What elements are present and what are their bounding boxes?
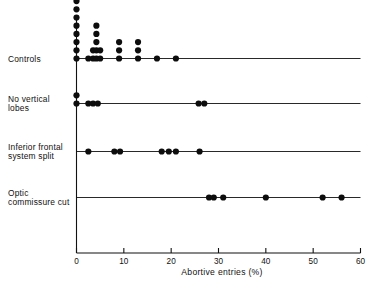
data-point (159, 148, 165, 154)
data-point (73, 55, 79, 61)
x-tick-label-10: 10 (119, 257, 129, 266)
data-point (73, 0, 79, 4)
category-label-1-line-0: No vertical (8, 94, 50, 104)
data-point (338, 194, 344, 200)
data-point (116, 55, 122, 61)
dot-plot-chart: ControlsNo verticallobesInferior frontal… (0, 0, 371, 288)
data-point (154, 55, 160, 61)
data-point (73, 31, 79, 37)
category-label-3-line-1: commissure cut (8, 197, 70, 207)
x-tick-label-40: 40 (261, 257, 271, 266)
x-tick-label-0: 0 (74, 257, 79, 266)
data-point (93, 39, 99, 45)
data-point (173, 148, 179, 154)
data-point (196, 100, 202, 106)
plot-canvas: ControlsNo verticallobesInferior frontal… (0, 0, 371, 288)
data-point (135, 55, 141, 61)
x-tick-label-50: 50 (309, 257, 319, 266)
data-point (263, 194, 269, 200)
data-point (73, 14, 79, 20)
data-point (196, 148, 202, 154)
data-point (73, 92, 79, 98)
category-label-1-line-1: lobes (8, 103, 29, 113)
data-point (97, 55, 103, 61)
data-point (220, 194, 226, 200)
data-point (73, 47, 79, 53)
data-point (116, 39, 122, 45)
data-point (73, 39, 79, 45)
data-point (111, 148, 117, 154)
data-point (85, 148, 91, 154)
x-axis-ticks-group: 0102030405060 (74, 248, 365, 266)
category-label-2-line-1: system split (8, 151, 55, 161)
category-baselines-group (77, 59, 361, 198)
x-tick-label-60: 60 (356, 257, 366, 266)
data-point (320, 194, 326, 200)
data-point (95, 100, 101, 106)
category-labels-group: ControlsNo verticallobesInferior frontal… (8, 54, 70, 208)
data-point (211, 194, 217, 200)
data-point (93, 31, 99, 37)
data-point (135, 47, 141, 53)
data-point (73, 23, 79, 29)
x-axis-title: Abortive entries (%) (181, 267, 262, 277)
category-label-2-line-0: Inferior frontal (8, 142, 63, 152)
category-label-0-line-0: Controls (8, 54, 41, 64)
data-point (117, 148, 123, 154)
data-points-group (73, 0, 344, 201)
category-label-3-line-0: Optic (8, 188, 29, 198)
data-point (116, 47, 122, 53)
data-point (73, 6, 79, 12)
data-point (93, 23, 99, 29)
data-point (73, 100, 79, 106)
data-point (201, 100, 207, 106)
x-tick-label-30: 30 (214, 257, 224, 266)
data-point (173, 55, 179, 61)
x-tick-label-20: 20 (167, 257, 177, 266)
data-point (135, 39, 141, 45)
data-point (166, 148, 172, 154)
data-point (97, 47, 103, 53)
